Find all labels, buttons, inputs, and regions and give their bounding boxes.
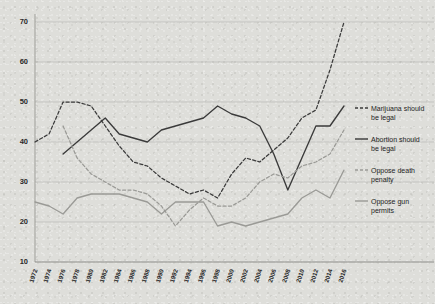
series-line-death_penalty [63,126,344,226]
y-tick-label: 20 [20,217,28,226]
series-lines-group [35,22,344,226]
x-tick-label: 1982 [98,268,109,284]
x-tick-label: 2006 [266,268,277,284]
y-tick-label: 60 [20,57,28,66]
y-tick-label: 10 [20,257,28,266]
y-tick-label: 50 [20,97,28,106]
x-tick-label: 1972 [28,268,39,284]
y-tick-label: 70 [20,17,28,26]
x-axis-tick-labels: 1972197419761978198019821984198619881990… [28,268,348,284]
x-tick-label: 2010 [294,268,305,284]
x-tick-label: 1992 [168,268,179,284]
legend-label-marijuana-line2: be legal [371,114,396,122]
x-tick-label: 1976 [56,268,67,284]
legend-label-death_penalty: Oppose death [371,167,415,175]
chart-legend: Marijuana shouldbe legalAbortion shouldb… [355,105,424,215]
legend-label-gun_permits: Oppose gun [371,198,409,206]
x-tick-label: 2004 [252,268,263,284]
x-tick-label: 1996 [196,268,207,284]
x-tick-label: 2008 [280,268,291,284]
x-tick-label: 1980 [84,268,95,284]
legend-label-abortion-line2: be legal [371,145,396,153]
series-line-gun_permits [35,170,344,226]
chart-svg: 10203040506070 1972197419761978198019821… [0,0,435,304]
x-tick-label: 1974 [42,268,53,284]
x-tick-label: 2000 [224,268,235,284]
x-tick-label: 1998 [210,268,221,284]
x-tick-label: 2012 [308,268,319,284]
x-tick-label: 1984 [112,268,123,284]
x-tick-label: 2014 [322,268,333,284]
line-chart: 10203040506070 1972197419761978198019821… [0,0,435,304]
legend-label-gun_permits-line2: permits [371,207,394,215]
y-tick-label: 30 [20,177,28,186]
x-tick-label: 2002 [238,268,249,284]
x-tick-label: 1990 [154,268,165,284]
x-tick-label: 1986 [126,268,137,284]
x-tick-label: 1988 [140,268,151,284]
x-tick-label: 2016 [337,268,348,284]
y-tick-label: 40 [20,137,28,146]
y-axis-tick-labels: 10203040506070 [20,17,28,266]
series-line-marijuana [35,22,344,198]
x-tick-label: 1978 [70,268,81,284]
x-tick-label: 1994 [182,268,193,284]
legend-label-abortion: Abortion should [371,136,420,143]
legend-label-marijuana: Marijuana should [371,105,424,113]
legend-label-death_penalty-line2: penalty [371,176,394,184]
